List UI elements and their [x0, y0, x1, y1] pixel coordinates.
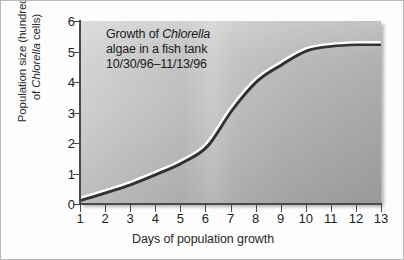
chart-title-line-1: Growth of Chlorella — [106, 27, 210, 42]
x-tick-label-11: 11 — [320, 211, 342, 226]
plot-area: Growth of Chlorella algae in a fish tank… — [80, 21, 381, 204]
y-axis-title: Population size (hundreds of Chlorella c… — [16, 0, 56, 152]
x-tick-label-6: 6 — [194, 211, 216, 226]
x-tick-label-5: 5 — [169, 211, 191, 226]
y-tick-mark-2 — [73, 143, 80, 144]
y-tick-mark-1 — [73, 174, 80, 175]
x-axis-title: Days of population growth — [1, 232, 404, 246]
y-axis-title-line-1: Population size (hundreds — [16, 0, 30, 152]
x-tick-label-3: 3 — [119, 211, 141, 226]
x-tick-label-13: 13 — [370, 211, 392, 226]
x-tick-label-9: 9 — [270, 211, 292, 226]
y-tick-mark-6 — [73, 21, 80, 22]
x-tick-label-4: 4 — [144, 211, 166, 226]
y-axis-title-italic: Chlorella — [30, 43, 42, 87]
chart-title-line-2: algae in a fish tank — [106, 42, 210, 57]
y-tick-mark-5 — [73, 52, 80, 53]
x-tick-label-12: 12 — [345, 211, 367, 226]
y-axis-title-line-2: of Chlorella cells) — [30, 0, 44, 152]
x-tick-label-2: 2 — [94, 211, 116, 226]
x-tick-label-10: 10 — [295, 211, 317, 226]
y-tick-mark-4 — [73, 82, 80, 83]
y-tick-mark-0 — [73, 204, 80, 205]
y-tick-mark-3 — [73, 113, 80, 114]
chart-title-date-range: 10/30/96–11/13/96 — [106, 57, 210, 72]
chart-title-italic-species: Chlorella — [162, 27, 210, 41]
chart-figure: Population size (hundreds of Chlorella c… — [0, 0, 404, 260]
chart-title: Growth of Chlorella algae in a fish tank… — [106, 27, 210, 72]
x-tick-label-1: 1 — [69, 211, 91, 226]
x-tick-label-7: 7 — [220, 211, 242, 226]
x-tick-label-8: 8 — [245, 211, 267, 226]
